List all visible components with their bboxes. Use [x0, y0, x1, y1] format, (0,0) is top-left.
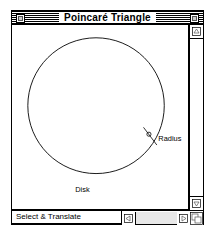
- scroll-down-arrow-icon[interactable]: [190, 197, 203, 210]
- scroll-right-arrow-icon[interactable]: [177, 212, 190, 225]
- window-bottom-bar: Select & Translate: [12, 210, 203, 224]
- horizontal-scrollbar[interactable]: [122, 210, 203, 224]
- drawing-canvas[interactable]: Radius Disk: [12, 25, 189, 210]
- window-title-label: Poincaré Triangle: [59, 12, 156, 23]
- vertical-scrollbar-track[interactable]: [190, 38, 203, 197]
- radius-leader-line: [144, 127, 157, 145]
- application-window: Poincaré Triangle Radius Disk: [11, 10, 204, 225]
- poincare-disk-circle[interactable]: [28, 38, 164, 174]
- window-titlebar[interactable]: Poincaré Triangle: [12, 11, 203, 25]
- mode-status-field[interactable]: Select & Translate: [12, 210, 122, 224]
- zoom-box-icon[interactable]: [190, 14, 199, 23]
- vertical-scrollbar[interactable]: [189, 25, 203, 210]
- disk-label: Disk: [75, 185, 90, 194]
- scroll-left-arrow-icon[interactable]: [122, 212, 135, 225]
- geometry-figure: Radius Disk: [12, 25, 188, 209]
- mode-status-label: Select & Translate: [12, 211, 81, 223]
- radius-label: Radius: [158, 134, 181, 143]
- window-title: Poincaré Triangle: [12, 11, 203, 25]
- desktop-background: Poincaré Triangle Radius Disk: [0, 0, 215, 237]
- scroll-up-arrow-icon[interactable]: [190, 25, 203, 38]
- window-grow-box-icon[interactable]: [190, 212, 203, 225]
